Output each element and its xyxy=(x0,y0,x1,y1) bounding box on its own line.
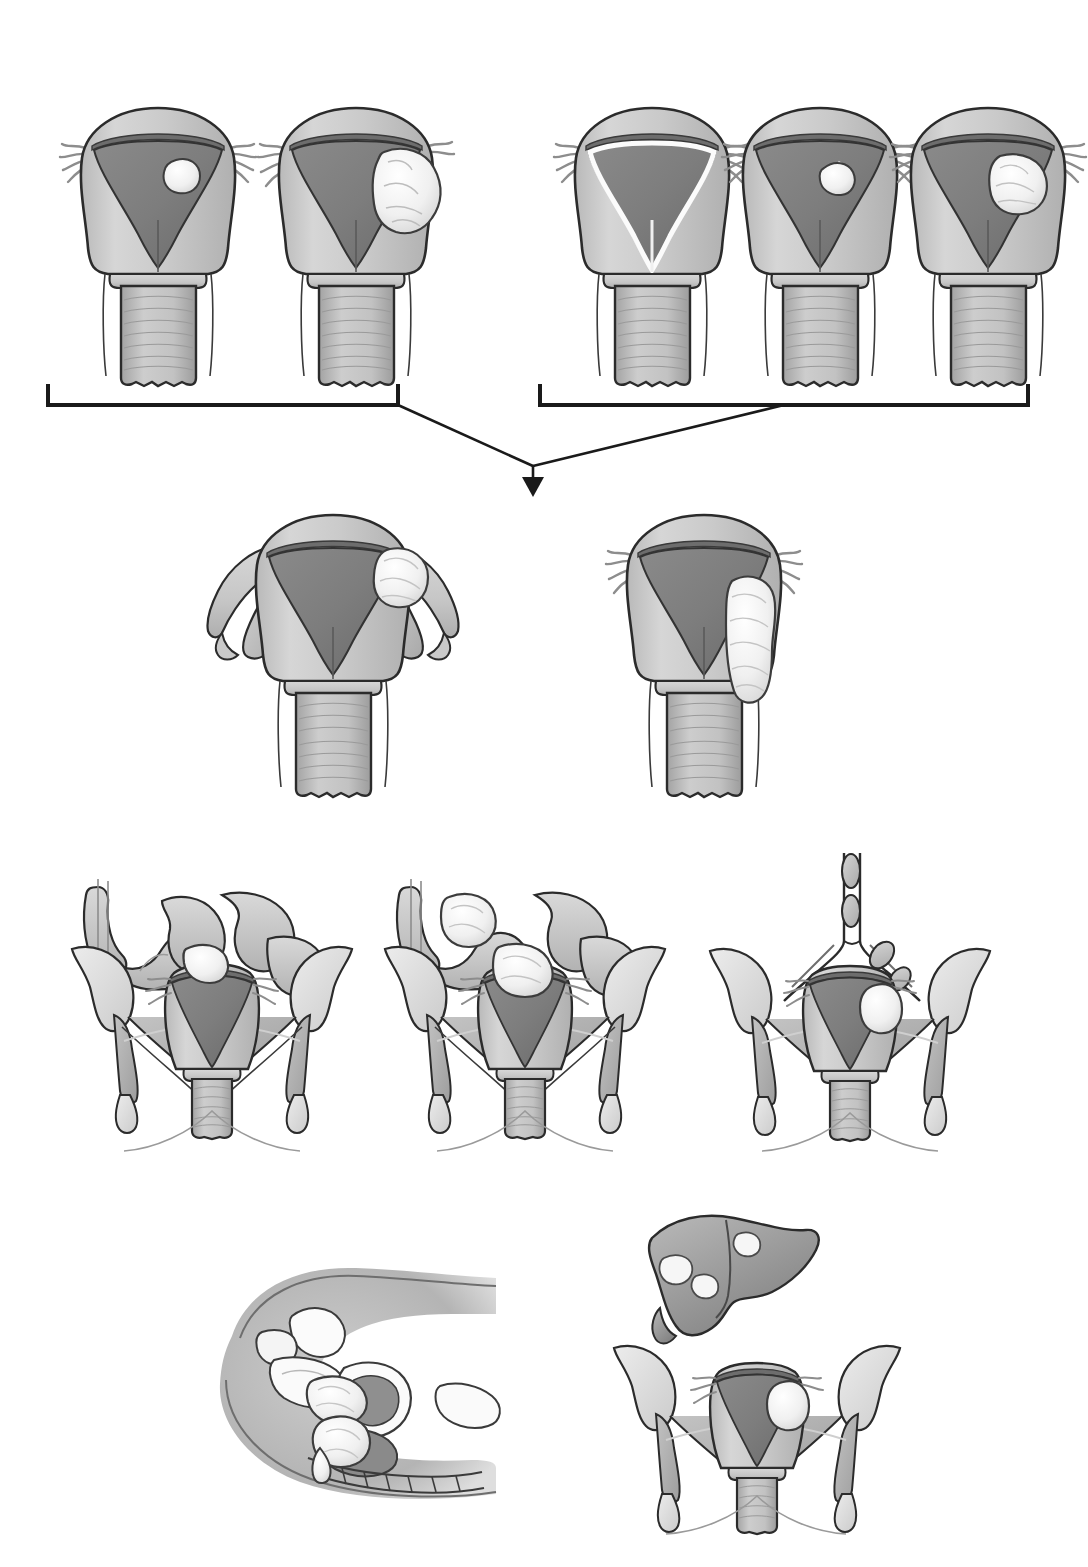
liver-metastasis-1 xyxy=(660,1255,693,1284)
left-obturator-muscle xyxy=(752,1017,776,1106)
right-obturator-muscle xyxy=(924,1017,948,1106)
panel-lms-ia xyxy=(58,100,258,390)
tumor-uterine-mass xyxy=(860,984,902,1033)
tumor-uterine-mass xyxy=(767,1381,809,1430)
coccyx-sacrum xyxy=(436,1384,500,1428)
lymph-node-paraaortic-2 xyxy=(842,895,860,927)
sagittal-pelvis-diagram-iva xyxy=(196,1262,506,1512)
cervix-vagina xyxy=(121,286,196,386)
panel-lms-ib xyxy=(256,100,466,390)
cervix-vagina xyxy=(296,693,371,797)
left-fimbriae xyxy=(216,633,238,660)
arrow-head-icon xyxy=(522,477,544,497)
right-obturator-muscle xyxy=(834,1414,858,1503)
right-obturator-muscle xyxy=(599,1015,623,1104)
pelvis-diagram-iiib xyxy=(375,855,675,1155)
uterus-diagram-lms-ia xyxy=(58,100,258,390)
tumor-extrauterine-extension xyxy=(726,577,775,703)
cervix-vagina xyxy=(783,286,858,386)
left-obturator-muscle xyxy=(656,1414,680,1503)
pelvis-diagram-iiic xyxy=(700,845,1000,1155)
cervix-vagina xyxy=(615,286,690,386)
right-fimbriae xyxy=(428,633,450,660)
cervix-vagina xyxy=(319,286,394,386)
panel-iib xyxy=(600,505,830,805)
panel-iva xyxy=(196,1262,506,1512)
pelvis-diagram-iiia xyxy=(62,855,362,1155)
cervix-vagina xyxy=(951,286,1026,386)
right-iliac-bone xyxy=(839,1346,900,1430)
left-iliac-bone xyxy=(710,949,771,1033)
aortic-bifurcation xyxy=(844,941,860,944)
uterus-diagram-ade-ic xyxy=(888,100,1088,390)
panel-iia xyxy=(178,505,488,805)
tumor-deposit-2 xyxy=(493,944,553,997)
panel-ivb xyxy=(600,1196,920,1536)
arrow-converging-lines xyxy=(398,405,784,480)
liver-metastasis-2 xyxy=(691,1274,718,1298)
panel-iiia xyxy=(62,855,362,1155)
panel-iiic xyxy=(700,845,1000,1155)
liver-metastasis-3 xyxy=(733,1232,760,1256)
left-obturator-muscle xyxy=(114,1015,138,1104)
tumor-nodule xyxy=(164,159,200,193)
right-obturator-muscle xyxy=(286,1015,310,1104)
tumor-polyp xyxy=(820,163,855,195)
liver-metastasis-pelvis-diagram-ivb xyxy=(600,1196,920,1536)
left-iliac-bone xyxy=(614,1346,675,1430)
panel-ade-ic xyxy=(888,100,1088,390)
liver-with-metastases xyxy=(649,1216,819,1344)
tumor-deposit-1 xyxy=(441,894,496,947)
left-obturator-muscle xyxy=(427,1015,451,1104)
uterus-adnexa-diagram-iia xyxy=(178,505,488,805)
panel-iiib xyxy=(375,855,675,1155)
uterus-diagram-lms-ib xyxy=(256,100,466,390)
uterus-diagram-iib xyxy=(600,505,830,805)
lymph-node-paraaortic-1 xyxy=(842,854,860,888)
cervix-vagina xyxy=(667,693,742,797)
tumor-adnexal-mass xyxy=(374,548,428,607)
right-iliac-bone xyxy=(929,949,990,1033)
